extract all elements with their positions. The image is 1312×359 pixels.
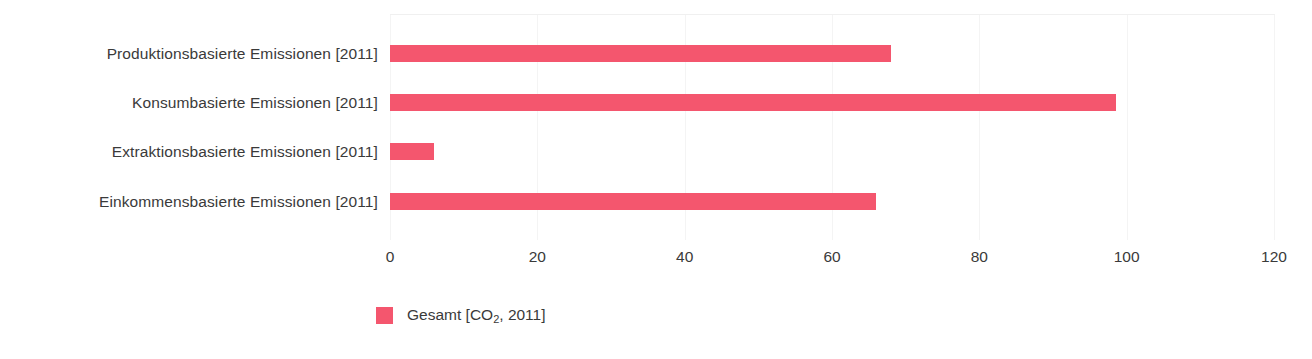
- category-axis-labels: Produktionsbasierte Emissionen [2011] Ko…: [0, 0, 378, 240]
- x-axis: 0 20 40 60 80 100 120: [390, 240, 1275, 274]
- category-label: Einkommensbasierte Emissionen [2011]: [0, 193, 378, 210]
- legend-label: Gesamt [CO2, 2011]: [407, 306, 546, 325]
- x-tick-label: 60: [823, 248, 840, 266]
- legend: Gesamt [CO2, 2011]: [376, 306, 546, 325]
- x-tick-label: 0: [386, 248, 395, 266]
- bar-einkommensbasierte: [390, 193, 876, 210]
- gridline: [1127, 15, 1128, 240]
- legend-label-prefix: Gesamt [CO: [407, 306, 493, 323]
- bar-chart: Produktionsbasierte Emissionen [2011] Ko…: [0, 0, 1312, 359]
- x-tick-label: 20: [529, 248, 546, 266]
- category-label: Produktionsbasierte Emissionen [2011]: [0, 45, 378, 62]
- legend-swatch-icon: [376, 307, 393, 324]
- x-tick-label: 40: [676, 248, 693, 266]
- gridline: [1274, 15, 1275, 240]
- legend-label-suffix: , 2011]: [499, 306, 545, 323]
- bar-extraktionsbasierte: [390, 143, 434, 160]
- bar-konsumbasierte: [390, 94, 1116, 111]
- category-label: Extraktionsbasierte Emissionen [2011]: [0, 143, 378, 160]
- legend-label-subscript: 2: [493, 313, 499, 325]
- category-label: Konsumbasierte Emissionen [2011]: [0, 94, 378, 111]
- bar-produktionsbasierte: [390, 45, 891, 62]
- x-tick-label: 100: [1114, 248, 1140, 266]
- x-tick-label: 80: [971, 248, 988, 266]
- plot-area: [390, 14, 1275, 240]
- x-tick-label: 120: [1261, 248, 1287, 266]
- gridline: [979, 15, 980, 240]
